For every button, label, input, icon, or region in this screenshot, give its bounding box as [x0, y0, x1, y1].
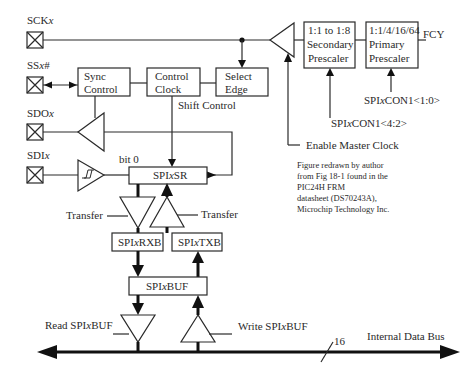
svg-text:Select: Select	[225, 70, 252, 82]
arrow-right-icon	[440, 345, 460, 359]
arrow-up-icon	[192, 295, 204, 308]
internal-data-bus: 16 Internal Data Bus	[37, 330, 460, 362]
arrow-left-icon	[44, 82, 52, 89]
spixtxb-register: SPIxTXB	[172, 233, 222, 251]
pin-sdox: SDOx	[27, 107, 54, 140]
arrow-up-icon	[192, 251, 204, 263]
attribution-note: Figure redrawn by author from Fig 18-1 f…	[297, 160, 390, 214]
spixrxb-register: SPIxRXB	[112, 233, 163, 251]
arrow-up-icon	[161, 183, 173, 196]
spixcon1-1-0-label: SPIxCON1<1:0>	[364, 94, 440, 106]
arrow-down-icon	[168, 159, 176, 167]
secondary-prescaler-block: 1:1 to 1:8 Secondary Prescaler	[304, 22, 355, 68]
svg-text:SPIxSR: SPIxSR	[153, 169, 188, 181]
pin-sckx: SCKx	[27, 14, 53, 48]
spi-block-diagram: SCKx SSx# SDOx SDIx 1:1 to 1:8 Secondary…	[0, 0, 475, 372]
sync-control-block: Sync Control	[78, 68, 130, 96]
pin-label-ssx: SSx#	[27, 59, 50, 71]
spixbuf-register: SPIxBUF	[129, 277, 207, 295]
rx-transfer-buffer	[120, 197, 155, 228]
spixsr-register: SPIxSR	[129, 167, 207, 184]
fcy-label: FCY	[423, 28, 444, 40]
tx-transfer-buffer	[150, 197, 184, 227]
svg-text:Edge: Edge	[225, 83, 248, 95]
transfer-left-label: Transfer	[66, 209, 103, 221]
arrow-right-icon	[69, 82, 77, 89]
transfer-right-label: Transfer	[201, 208, 238, 220]
svg-text:1:1/4/16/64: 1:1/4/16/64	[369, 24, 420, 36]
svg-text:Figure redrawn by author: Figure redrawn by author	[297, 160, 384, 170]
bus-width-label: 16	[334, 335, 346, 347]
svg-text:Prescaler: Prescaler	[369, 52, 410, 64]
svg-text:Control: Control	[155, 70, 189, 82]
pin-label-sdox: SDOx	[27, 107, 54, 119]
svg-text:Microchip Technology Inc.: Microchip Technology Inc.	[297, 204, 390, 214]
svg-text:Sync: Sync	[84, 70, 106, 82]
internal-data-bus-label: Internal Data Bus	[367, 330, 445, 342]
shift-control-label: Shift Control	[178, 99, 236, 111]
primary-prescaler-block: 1:1/4/16/64 Primary Prescaler	[366, 22, 420, 68]
arrow-up-icon	[387, 68, 395, 76]
sdo-output-buffer	[78, 113, 104, 151]
control-clock-block: Control Clock	[147, 68, 200, 96]
enable-master-clock-label: Enable Master Clock	[306, 139, 399, 151]
write-spixbuf-label: Write SPIxBUF	[238, 320, 308, 332]
svg-text:SPIxBUF: SPIxBUF	[146, 280, 188, 292]
pin-ssx: SSx#	[27, 59, 50, 93]
svg-text:Prescaler: Prescaler	[308, 52, 349, 64]
svg-text:Secondary: Secondary	[307, 38, 354, 50]
pin-label-sdix: SDIx	[27, 149, 50, 161]
select-edge-block: Select Edge	[216, 68, 268, 96]
arrow-right-icon	[207, 172, 216, 179]
svg-text:Clock: Clock	[155, 83, 182, 95]
bit0-label: bit 0	[119, 153, 139, 165]
svg-text:SPIxTXB: SPIxTXB	[178, 236, 221, 248]
clock-output-buffer	[270, 23, 294, 57]
arrow-up-icon	[326, 68, 334, 76]
svg-text:Control: Control	[84, 83, 118, 95]
svg-text:SPIxRXB: SPIxRXB	[118, 236, 161, 248]
svg-text:PIC24H FRM: PIC24H FRM	[297, 182, 345, 192]
write-buffer	[181, 315, 215, 342]
spixcon1-4-2-label: SPIxCON1<4:2>	[331, 117, 407, 129]
read-buffer	[121, 315, 155, 342]
svg-text:Primary: Primary	[369, 38, 405, 50]
arrow-down-icon	[238, 60, 246, 68]
svg-text:datasheet (DS70243A),: datasheet (DS70243A),	[297, 193, 377, 203]
read-spixbuf-label: Read SPIxBUF	[45, 319, 113, 331]
arrow-left-icon	[37, 345, 57, 359]
svg-text:from Fig 18-1 found in the: from Fig 18-1 found in the	[297, 171, 388, 181]
svg-text:1:1 to 1:8: 1:1 to 1:8	[308, 24, 351, 36]
arrow-down-icon	[132, 303, 144, 315]
arrow-down-icon	[132, 265, 144, 277]
pin-label-sckx: SCKx	[27, 14, 53, 26]
pin-sdix: SDIx	[27, 149, 50, 183]
